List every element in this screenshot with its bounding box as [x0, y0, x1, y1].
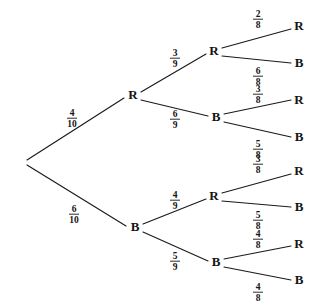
fraction-numerator: 2 [256, 9, 261, 19]
tree-node-label-b: B [295, 199, 304, 214]
fraction-numerator: 4 [256, 282, 261, 292]
probability-tree-diagram: 410610396949592868385838584848 RBRBRBRBR… [0, 0, 325, 308]
fraction-numerator: 3 [256, 154, 261, 164]
fraction-denominator: 10 [67, 119, 77, 129]
fraction-denominator: 8 [256, 165, 261, 175]
fraction-numerator: 4 [70, 108, 75, 118]
tree-node-label-r: R [294, 92, 304, 107]
tree-node-label-b: B [295, 129, 304, 144]
fraction-numerator: 3 [173, 48, 178, 58]
fraction-numerator: 4 [256, 229, 261, 239]
fraction-numerator: 4 [173, 190, 178, 200]
fraction-denominator: 8 [256, 95, 261, 105]
tree-node-label-b: B [295, 272, 304, 287]
fraction-denominator: 9 [173, 262, 178, 272]
fraction-numerator: 5 [173, 251, 178, 261]
fraction-numerator: 6 [72, 204, 77, 214]
fraction-denominator: 8 [256, 20, 261, 30]
fraction-denominator: 8 [256, 240, 261, 250]
fraction-numerator: 5 [256, 210, 261, 220]
fraction-denominator: 9 [173, 201, 178, 211]
fraction-numerator: 6 [173, 109, 178, 119]
tree-node-label-r: R [209, 43, 219, 58]
tree-node-label-r: R [294, 18, 304, 33]
tree-node-label-b: B [212, 254, 221, 269]
fraction-denominator: 9 [173, 59, 178, 69]
diagram-background [0, 0, 325, 308]
tree-node-label-r: R [128, 87, 138, 102]
fraction-denominator: 9 [173, 120, 178, 130]
tree-node-label-r: R [294, 163, 304, 178]
fraction-numerator: 5 [256, 139, 261, 149]
tree-node-label-b: B [131, 219, 140, 234]
fraction-denominator: 8 [256, 293, 261, 303]
tree-node-label-b: B [295, 55, 304, 70]
tree-node-label-b: B [212, 109, 221, 124]
tree-node-label-r: R [209, 188, 219, 203]
fraction-numerator: 6 [256, 66, 261, 76]
fraction-numerator: 3 [256, 84, 261, 94]
fraction-denominator: 10 [69, 215, 79, 225]
tree-node-label-r: R [294, 236, 304, 251]
